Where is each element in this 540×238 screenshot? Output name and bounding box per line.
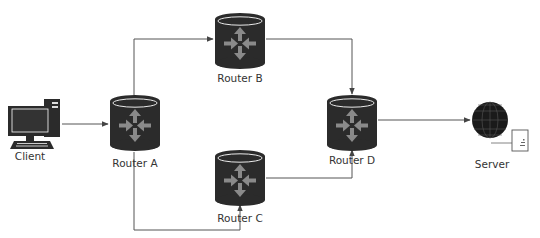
- router-b-label: Router B: [200, 72, 280, 84]
- edge-router-a-router-b: [134, 39, 213, 96]
- router-d-icon: [327, 95, 377, 151]
- router-c-label: Router C: [200, 212, 280, 224]
- router-b-icon: [215, 13, 265, 69]
- server-label: Server: [452, 158, 532, 170]
- router-a-label: Router A: [95, 157, 175, 169]
- router-d-label: Router D: [312, 154, 392, 166]
- router-a-icon: [110, 95, 160, 151]
- router-c-icon: [215, 150, 265, 206]
- edge-router-b-router-d: [266, 39, 352, 94]
- network-diagram: [0, 0, 540, 238]
- client-label: Client: [0, 150, 70, 162]
- globe-server-icon: [472, 102, 528, 151]
- desktop-computer-icon: [8, 99, 60, 149]
